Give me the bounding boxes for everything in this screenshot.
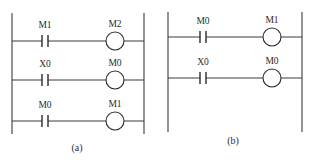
coil-label: M2 [108,19,121,29]
rung: M0M1 [168,15,302,46]
rung: M0M1 [12,99,144,130]
contact-label: X0 [39,59,51,69]
rung: M1M2 [12,19,144,50]
normally-open-contact-icon [200,72,206,84]
ladder-panel-b: M0M1X0M0(b) [168,12,302,147]
output-coil-icon [106,112,124,130]
panel-caption: (a) [71,142,82,154]
output-coil-icon [106,71,124,89]
ladder-panel-a: M1M2X0M0M0M1(a) [12,13,144,154]
rung: X0M0 [12,58,144,89]
coil-label: M1 [108,99,121,109]
ladder-panels: M1M2X0M0M0M1(a)M0M1X0M0(b) [12,12,302,154]
contact-label: X0 [197,57,209,67]
normally-open-contact-icon [42,35,48,47]
contact-label: M1 [38,20,51,30]
contact-label: M0 [196,16,209,26]
coil-label: M0 [265,56,278,66]
coil-label: M0 [108,58,121,68]
output-coil-icon [106,32,124,50]
output-coil-icon [263,69,281,87]
ladder-diagram-canvas: M1M2X0M0M0M1(a)M0M1X0M0(b) [0,0,316,160]
normally-open-contact-icon [200,31,206,43]
normally-open-contact-icon [42,115,48,127]
contact-label: M0 [38,100,51,110]
output-coil-icon [263,28,281,46]
rung: X0M0 [168,56,302,87]
coil-label: M1 [265,15,278,25]
panel-caption: (b) [227,135,239,147]
normally-open-contact-icon [42,74,48,86]
